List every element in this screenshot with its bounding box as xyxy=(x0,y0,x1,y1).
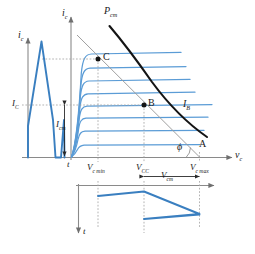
ib-curve-3 xyxy=(72,117,209,157)
main-y-axis-label: ic xyxy=(62,8,68,20)
vcc-label: VCC xyxy=(136,163,149,174)
load-line-angle-arc xyxy=(186,148,191,158)
figure-canvas xyxy=(0,0,255,254)
left-time-axis-label: t xyxy=(67,160,70,169)
point-b-marker xyxy=(142,103,147,108)
vcmax-label: Vc max xyxy=(190,163,209,174)
ic-quiescent-label: IC xyxy=(12,99,19,110)
point-c-marker xyxy=(96,57,101,62)
vcm-label: Vcm xyxy=(161,171,173,182)
ib-family-label: IB xyxy=(183,99,190,111)
point-b-label: B xyxy=(148,98,155,108)
main-plot-guide-lines xyxy=(22,59,200,162)
pcm-curve-label: Pcm xyxy=(104,6,117,18)
main-x-axis-label: vc xyxy=(235,150,242,162)
amplifier-load-line-figure: ic vc Pcm IB C B A ϕ Vc min VCC Vc max V… xyxy=(0,0,255,254)
collector-voltage-waveform xyxy=(98,192,200,220)
point-c-label: C xyxy=(103,52,110,62)
bottom-time-axis-label: t xyxy=(83,227,86,236)
vcmin-label: Vc min xyxy=(87,163,105,174)
left-y-axis-label: ic xyxy=(18,30,24,42)
ib-curve-2 xyxy=(72,130,205,157)
load-line-angle-label: ϕ xyxy=(177,142,182,152)
point-a-label: A xyxy=(199,139,206,149)
icm-amplitude-label: Icm xyxy=(56,120,66,131)
